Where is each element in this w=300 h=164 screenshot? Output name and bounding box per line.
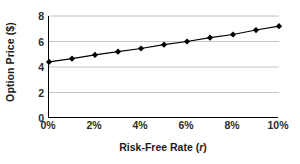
data-point-marker xyxy=(69,56,75,62)
y-tick-label: 2 xyxy=(20,88,44,99)
x-axis-title: Risk-Free Rate (r) xyxy=(48,141,278,153)
data-point-marker xyxy=(92,52,98,58)
y-axis-tick-labels: 8 6 4 2 0 xyxy=(20,0,44,164)
x-tick-label: 4% xyxy=(132,120,147,131)
x-tick-label: 8% xyxy=(224,120,239,131)
data-point-marker xyxy=(184,38,190,44)
y-tick-label: 6 xyxy=(20,37,44,48)
data-point-marker xyxy=(276,23,282,29)
data-point-marker xyxy=(46,59,52,65)
plot-canvas xyxy=(49,16,279,118)
y-axis-title-text: Option Price ($) xyxy=(4,22,16,102)
option-price-vs-risk-free-rate-chart: Option Price ($) 8 6 4 2 0 0%2%4%6%8%10%… xyxy=(0,0,300,164)
x-tick-label: 6% xyxy=(178,120,193,131)
data-point-marker xyxy=(161,42,167,48)
y-axis-title: Option Price ($) xyxy=(0,0,20,124)
y-tick-label: 4 xyxy=(20,62,44,73)
x-tick-label: 2% xyxy=(86,120,101,131)
x-tick-label: 10% xyxy=(267,120,288,131)
data-point-marker xyxy=(207,35,213,41)
data-point-marker xyxy=(230,31,236,37)
x-axis-title-text: Risk-Free Rate xyxy=(119,141,193,153)
x-axis-title-paren-close: ) xyxy=(203,141,207,153)
data-point-marker xyxy=(253,27,259,33)
data-point-marker xyxy=(115,49,121,55)
data-point-marker xyxy=(138,45,144,51)
x-tick-label: 0% xyxy=(40,120,55,131)
x-axis-tick-labels: 0%2%4%6%8%10% xyxy=(48,120,278,136)
y-tick-label: 8 xyxy=(20,11,44,22)
data-markers xyxy=(46,23,282,65)
plot-area xyxy=(48,16,278,118)
gridlines xyxy=(49,16,279,93)
